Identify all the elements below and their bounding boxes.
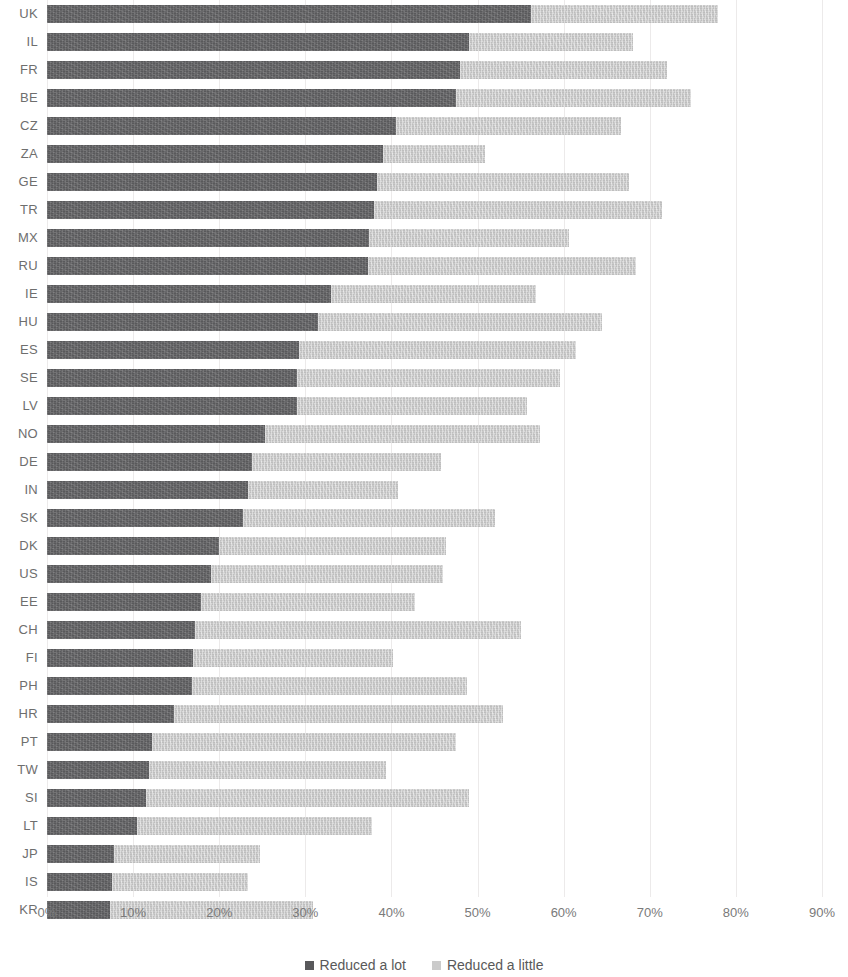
bar-row: EE (0, 588, 848, 616)
bar-track (47, 33, 837, 51)
legend-item-reduced-a-lot[interactable]: Reduced a lot (305, 958, 406, 972)
bar-segment-reduced-a-little (201, 593, 415, 611)
bar-segment-reduced-a-lot (47, 705, 174, 723)
bar-segment-reduced-a-little (195, 621, 521, 639)
x-tick-label: 60% (551, 905, 577, 920)
category-label-ie: IE (0, 280, 38, 308)
bar-row: JP (0, 840, 848, 868)
bar-track (47, 341, 837, 359)
bar-segment-reduced-a-little (377, 173, 629, 191)
bar-track (47, 425, 837, 443)
bar-segment-reduced-a-lot (47, 761, 149, 779)
bar-segment-reduced-a-lot (47, 201, 374, 219)
bar-track (47, 621, 837, 639)
bar-segment-reduced-a-little (318, 313, 601, 331)
bar-row: CZ (0, 112, 848, 140)
bar-segment-reduced-a-lot (47, 649, 193, 667)
bar-row: LV (0, 392, 848, 420)
bar-track (47, 705, 837, 723)
bar-track (47, 61, 837, 79)
category-label-za: ZA (0, 140, 38, 168)
bar-segment-reduced-a-lot (47, 789, 146, 807)
category-label-us: US (0, 560, 38, 588)
x-tick-label: 20% (206, 905, 232, 920)
bar-segment-reduced-a-little (149, 761, 387, 779)
bar-segment-reduced-a-lot (47, 565, 211, 583)
bar-row: UK (0, 0, 848, 28)
category-label-jp: JP (0, 840, 38, 868)
bar-segment-reduced-a-little (174, 705, 502, 723)
bar-row: SK (0, 504, 848, 532)
bar-segment-reduced-a-little (374, 201, 662, 219)
bar-segment-reduced-a-lot (47, 33, 469, 51)
bar-segment-reduced-a-lot (47, 509, 243, 527)
category-label-lt: LT (0, 812, 38, 840)
bar-row: ES (0, 336, 848, 364)
bar-segment-reduced-a-lot (47, 145, 383, 163)
bar-segment-reduced-a-lot (47, 481, 248, 499)
bar-segment-reduced-a-lot (47, 593, 201, 611)
bar-row: MX (0, 224, 848, 252)
legend-item-reduced-a-little[interactable]: Reduced a little (432, 958, 544, 972)
bar-row: BE (0, 84, 848, 112)
light-square-icon (432, 961, 441, 970)
legend-label: Reduced a lot (320, 958, 406, 972)
bar-segment-reduced-a-lot (47, 313, 318, 331)
bar-track (47, 257, 837, 275)
bar-row: DE (0, 448, 848, 476)
bar-row: TR (0, 196, 848, 224)
x-tick-label: 40% (378, 905, 404, 920)
bar-row: FR (0, 56, 848, 84)
bar-row: GE (0, 168, 848, 196)
bar-row: NO (0, 420, 848, 448)
category-label-is: IS (0, 868, 38, 896)
bar-segment-reduced-a-lot (47, 453, 252, 471)
bar-rows: UKILFRBECZZAGETRMXRUIEHUESSELVNODEINSKDK… (0, 0, 848, 924)
dark-square-icon (305, 961, 314, 970)
bar-segment-reduced-a-little (192, 677, 468, 695)
bar-segment-reduced-a-little (469, 33, 633, 51)
stacked-bar-chart: UKILFRBECZZAGETRMXRUIEHUESSELVNODEINSKDK… (0, 0, 848, 977)
bar-row: DK (0, 532, 848, 560)
bar-track (47, 285, 837, 303)
category-label-pt: PT (0, 728, 38, 756)
bar-segment-reduced-a-lot (47, 5, 531, 23)
bar-row: PT (0, 728, 848, 756)
bar-segment-reduced-a-little (456, 89, 691, 107)
bar-segment-reduced-a-little (137, 817, 372, 835)
x-tick-label: 10% (120, 905, 146, 920)
bar-track (47, 593, 837, 611)
bar-track (47, 145, 837, 163)
bar-row: SE (0, 364, 848, 392)
category-label-mx: MX (0, 224, 38, 252)
bar-segment-reduced-a-lot (47, 733, 152, 751)
bar-track (47, 873, 837, 891)
bar-track (47, 201, 837, 219)
category-label-de: DE (0, 448, 38, 476)
bar-segment-reduced-a-lot (47, 677, 192, 695)
bar-track (47, 761, 837, 779)
bar-segment-reduced-a-little (460, 61, 667, 79)
category-label-si: SI (0, 784, 38, 812)
bar-segment-reduced-a-little (146, 789, 469, 807)
category-label-dk: DK (0, 532, 38, 560)
bar-track (47, 89, 837, 107)
bar-row: IE (0, 280, 848, 308)
category-label-ph: PH (0, 672, 38, 700)
bar-segment-reduced-a-lot (47, 873, 112, 891)
bar-segment-reduced-a-little (211, 565, 444, 583)
chart-legend: Reduced a lotReduced a little (0, 952, 848, 977)
bar-row: IS (0, 868, 848, 896)
bar-row: PH (0, 672, 848, 700)
x-axis: 0%10%20%30%40%50%60%70%80%90% (0, 897, 848, 931)
category-label-se: SE (0, 364, 38, 392)
category-label-fr: FR (0, 56, 38, 84)
bar-segment-reduced-a-little (299, 341, 575, 359)
category-label-ge: GE (0, 168, 38, 196)
bar-segment-reduced-a-little (193, 649, 393, 667)
bar-segment-reduced-a-lot (47, 61, 460, 79)
bar-track (47, 229, 837, 247)
bar-segment-reduced-a-little (265, 425, 541, 443)
bar-segment-reduced-a-little (152, 733, 456, 751)
bar-row: IN (0, 476, 848, 504)
